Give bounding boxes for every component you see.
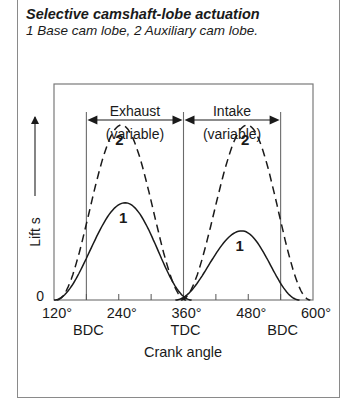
y-axis-label: Lift s (27, 217, 43, 247)
curve-number-label: 1 (236, 237, 244, 254)
arrow-left-icon (87, 116, 97, 125)
curve-number-label: 2 (115, 131, 123, 148)
y-axis-zero: 0 (36, 288, 44, 304)
region-exhaust: Exhaust(variable) (87, 103, 182, 142)
region-label: Exhaust (110, 103, 161, 119)
x-tick-label: 360° (172, 305, 202, 321)
arrow-left-icon (185, 116, 195, 125)
arrow-right-icon (270, 116, 280, 125)
x-tick-label: 120° (42, 305, 72, 321)
curve-number-label: 2 (241, 131, 249, 148)
crank-position-label: BDC (267, 322, 298, 338)
x-tick-label: 600° (301, 305, 331, 321)
x-axis-title: Crank angle (144, 344, 222, 360)
curve-number-label: 1 (119, 209, 127, 226)
lift-chart: Exhaust(variable)Intake(variable) 1122 1… (0, 0, 347, 401)
region-intake: Intake(variable) (185, 103, 280, 142)
x-axis-labels: 120°240°360°480°600°BDCTDCBDC (42, 305, 331, 338)
lift-curves: 1122 (54, 125, 310, 300)
crank-position-label: TDC (171, 322, 201, 338)
x-tick-label: 480° (236, 305, 266, 321)
region-label: Intake (213, 103, 251, 119)
curve-auxiliary (181, 125, 310, 300)
crank-position-label: BDC (73, 322, 104, 338)
arrow-right-icon (173, 116, 183, 125)
x-tick-label: 240° (107, 305, 137, 321)
